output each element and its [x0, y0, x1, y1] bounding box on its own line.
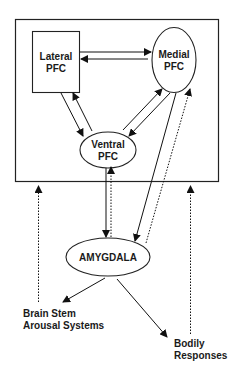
node-brain-stem: Brain Stem Arousal Systems — [23, 308, 105, 331]
node-lateral-pfc: Lateral PFC — [33, 32, 80, 93]
edge-amygdala-to-brainstem — [63, 278, 105, 302]
edge-amygdala-to-medial — [146, 89, 190, 243]
lateral-pfc-label-line2: PFC — [46, 63, 66, 74]
amygdala-label: AMYGDALA — [79, 252, 137, 263]
node-medial-pfc: Medial PFC — [152, 28, 196, 93]
bodily-label-line1: Bodily — [174, 338, 205, 349]
brain-stem-label-line1: Brain Stem — [23, 308, 76, 319]
node-bodily-responses: Bodily Responses — [174, 338, 228, 361]
node-amygdala: AMYGDALA — [66, 238, 150, 276]
edge-amygdala-to-bodily — [117, 279, 167, 337]
bodily-label-line2: Responses — [174, 350, 228, 361]
edge-ventral-to-lateral — [73, 93, 92, 131]
edge-medial-to-ventral — [129, 93, 170, 136]
edge-ventral-to-medial — [123, 89, 162, 130]
medial-pfc-label-line1: Medial — [158, 49, 189, 60]
brain-stem-label-line2: Arousal Systems — [23, 320, 105, 331]
node-ventral-pfc: Ventral PFC — [80, 132, 136, 168]
medial-pfc-label-line2: PFC — [164, 61, 184, 72]
lateral-pfc-label-line1: Lateral — [40, 51, 73, 62]
ventral-pfc-label-line1: Ventral — [91, 139, 125, 150]
edge-lateral-to-ventral — [61, 93, 83, 136]
diagram-canvas: Lateral PFC Medial PFC Ventral PFC AMYGD… — [0, 0, 241, 377]
ventral-pfc-label-line2: PFC — [98, 151, 118, 162]
edge-medial-to-amygdala — [135, 93, 176, 241]
